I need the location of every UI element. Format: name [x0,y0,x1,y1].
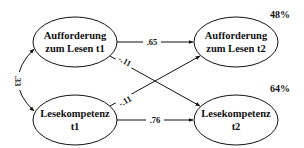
r-squared-aufforderung-t2: 48% [270,9,290,20]
node-lesekompetenz-t1: Lesekompetenz t1 [33,95,117,145]
node-label-line1: Lesekompetenz [201,108,271,119]
correlation-label: .33 [13,76,23,87]
path-label-lesekompetenz-stability: .76 [150,115,161,125]
node-label-line1: Aufforderung [44,30,107,41]
node-aufforderung-t1: Aufforderung zum Lesen t1 [33,17,117,67]
r-squared-lesekompetenz-t2: 64% [270,83,290,94]
node-label-line2: t1 [71,121,80,132]
path-diagram: .33 .65 .76 -.11 -.11 Aufforderung zum L… [0,0,304,148]
node-label-line2: zum Lesen t1 [45,43,105,54]
node-label-line1: Aufforderung [205,30,268,41]
node-aufforderung-t2: Aufforderung zum Lesen t2 [194,17,278,67]
node-lesekompetenz-t2: Lesekompetenz t2 [194,95,278,145]
node-label-line2: t2 [232,121,241,132]
node-label-line1: Lesekompetenz [40,108,110,119]
node-label-line2: zum Lesen t2 [206,43,266,54]
path-label-aufforderung-stability: .65 [147,37,158,47]
